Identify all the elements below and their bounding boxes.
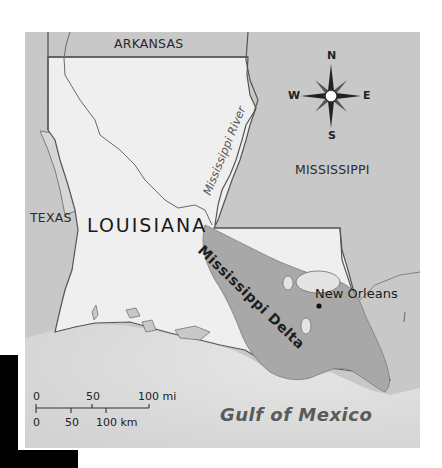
compass-west-label: W	[288, 89, 300, 102]
compass-north-label: N	[327, 49, 336, 62]
new-orleans-dot	[316, 303, 321, 308]
black-block-bottom	[0, 450, 78, 468]
texas-label: TEXAS	[30, 210, 72, 225]
scale-km-0: 0	[33, 416, 40, 429]
scale-mi-100: 100 mi	[138, 390, 176, 403]
lake-maurepas	[283, 276, 293, 290]
new-orleans-label: New Orleans	[315, 286, 398, 301]
louisiana-label: LOUISIANA	[87, 214, 207, 236]
compass-south-label: S	[328, 129, 336, 142]
mississippi-state-label: MISSISSIPPI	[295, 162, 370, 177]
scale-mi-0: 0	[33, 390, 40, 403]
scale-km-100: 100 km	[96, 416, 138, 429]
arkansas-label: ARKANSAS	[114, 36, 183, 51]
scale-mi-50: 50	[86, 390, 100, 403]
compass-east-label: E	[363, 89, 371, 102]
lake-salvador	[301, 318, 311, 334]
map-graphic	[0, 0, 442, 468]
scale-km-50: 50	[65, 416, 79, 429]
louisiana-map: ARKANSAS MISSISSIPPI TEXAS LOUISIANA Mis…	[0, 0, 442, 468]
gulf-of-mexico-label: Gulf of Mexico	[220, 404, 372, 425]
